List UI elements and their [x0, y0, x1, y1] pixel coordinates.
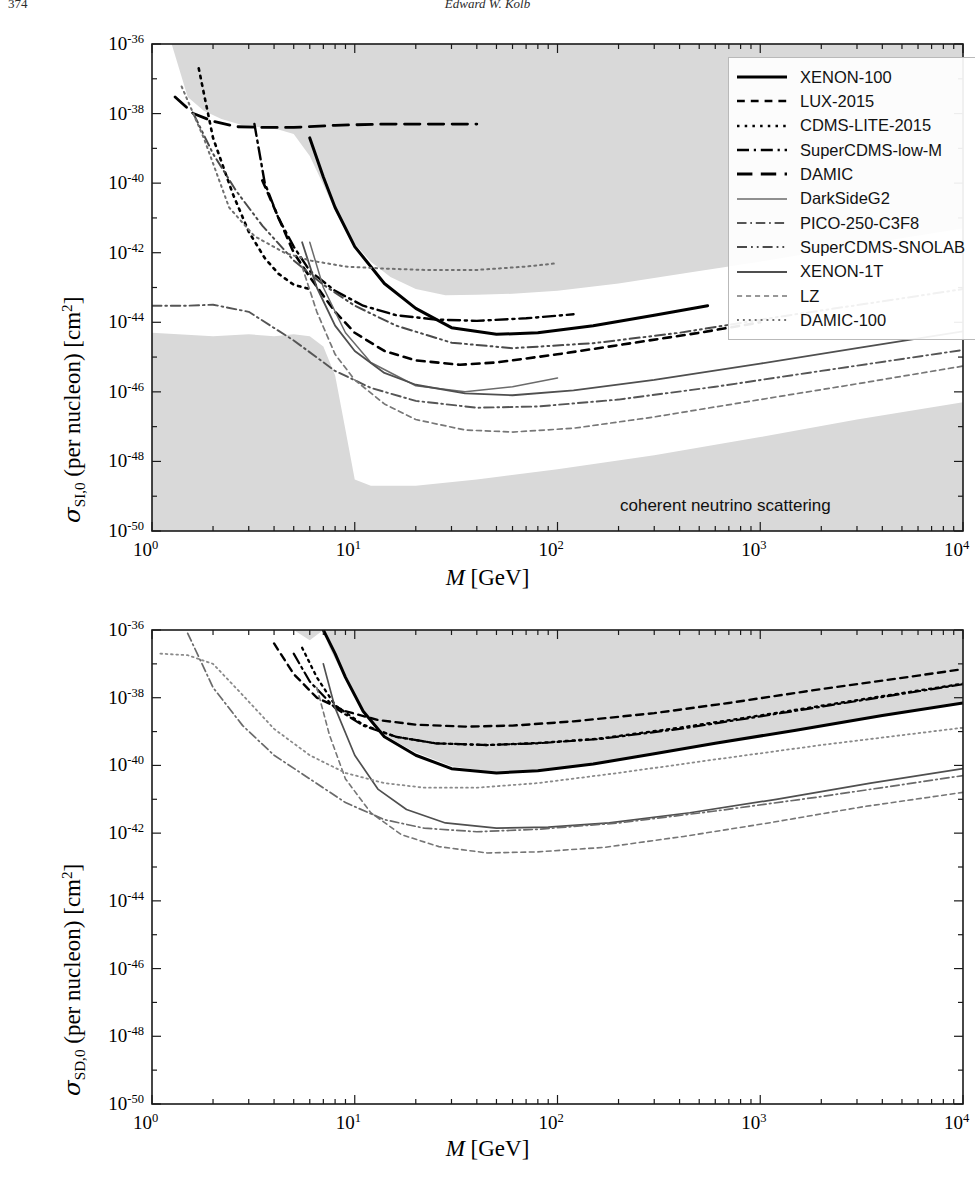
legend-swatch — [735, 313, 789, 327]
legend-label: LZ — [800, 288, 819, 305]
legend-item[interactable]: LZ — [735, 284, 971, 308]
y-tick-label: 10-44 — [74, 889, 144, 912]
plot-area-spin-dependent — [0, 616, 975, 1176]
legend-label: DarkSideG2 — [800, 190, 890, 207]
legend-label: LUX-2015 — [800, 93, 874, 110]
legend-label: CDMS-LITE-2015 — [800, 117, 931, 134]
y-tick-label: 10-46 — [74, 380, 144, 403]
legend-swatch — [735, 265, 789, 279]
x-tick-label: 101 — [336, 1111, 361, 1134]
figure-direct-detection-limits: σSI,0 (per nucleon) [cm2] M [GeV] cohere… — [0, 0, 975, 1203]
x-tick-label: 103 — [741, 538, 766, 561]
legend-swatch — [735, 289, 789, 303]
x-axis-label-si: M [GeV] — [0, 565, 975, 591]
y-tick-label: 10-42 — [74, 241, 144, 264]
legend-item[interactable]: LUX-2015 — [735, 89, 971, 113]
panel-spin-dependent: σSD,0 (per nucleon) [cm2] M [GeV] XENON-… — [0, 616, 975, 1176]
legend-item[interactable]: CDMS-LITE-2015 — [735, 114, 971, 138]
legend-item[interactable]: DAMIC — [735, 162, 971, 186]
x-tick-label: 103 — [741, 1111, 766, 1134]
y-tick-label: 10-36 — [74, 32, 144, 55]
legend-label: XENON-100 — [800, 69, 892, 86]
legend-label: SuperCDMS-SNOLAB — [800, 239, 965, 256]
x-tick-label: 101 — [336, 538, 361, 561]
legend-swatch — [735, 94, 789, 108]
legend-item[interactable]: XENON-1T — [735, 259, 971, 283]
legend-label: DAMIC — [800, 166, 853, 183]
y-tick-label: 10-36 — [74, 618, 144, 641]
y-tick-label: 10-40 — [74, 171, 144, 194]
x-tick-label: 104 — [944, 1111, 969, 1134]
legend-label: SuperCDMS-low-M — [800, 142, 942, 159]
x-tick-label: 104 — [944, 538, 969, 561]
legend-swatch — [735, 192, 789, 206]
y-tick-label: 10-46 — [74, 957, 144, 980]
x-axis-label-sd: M [GeV] — [0, 1136, 975, 1162]
panel-spin-independent: σSI,0 (per nucleon) [cm2] M [GeV] cohere… — [0, 18, 975, 608]
legend-item[interactable]: PICO-250-C3F8 — [735, 211, 971, 235]
x-tick-label: 102 — [539, 538, 564, 561]
y-tick-label: 10-40 — [74, 753, 144, 776]
y-tick-label: 10-50 — [74, 519, 144, 542]
legend-swatch — [735, 70, 789, 84]
legend-item[interactable]: DAMIC-100 — [735, 308, 971, 332]
legend-item[interactable]: SuperCDMS-low-M — [735, 138, 971, 162]
legend-spin-independent: XENON-100LUX-2015CDMS-LITE-2015SuperCDMS… — [728, 57, 975, 340]
x-tick-label: 102 — [539, 1111, 564, 1134]
y-tick-label: 10-48 — [74, 449, 144, 472]
y-tick-label: 10-48 — [74, 1024, 144, 1047]
legend-swatch — [735, 240, 789, 254]
y-tick-label: 10-50 — [74, 1092, 144, 1115]
legend-label: PICO-250-C3F8 — [800, 215, 919, 232]
legend-item[interactable]: XENON-100 — [735, 65, 971, 89]
legend-swatch — [735, 143, 789, 157]
legend-swatch — [735, 167, 789, 181]
legend-swatch — [735, 119, 789, 133]
legend-item[interactable]: DarkSideG2 — [735, 186, 971, 210]
annotation-neutrino-floor: coherent neutrino scattering — [620, 496, 831, 516]
y-tick-label: 10-44 — [74, 310, 144, 333]
legend-label: DAMIC-100 — [800, 312, 886, 329]
legend-swatch — [735, 216, 789, 230]
y-tick-label: 10-38 — [74, 686, 144, 709]
legend-label: XENON-1T — [800, 263, 883, 280]
legend-item[interactable]: SuperCDMS-SNOLAB — [735, 235, 971, 259]
y-tick-label: 10-42 — [74, 821, 144, 844]
y-tick-label: 10-38 — [74, 102, 144, 125]
